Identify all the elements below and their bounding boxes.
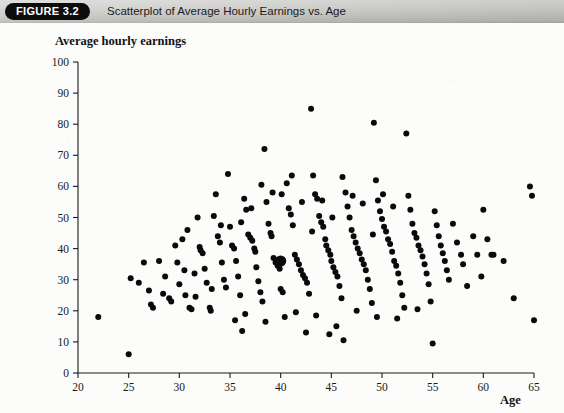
data-point [484, 236, 490, 242]
data-point [309, 229, 315, 235]
data-point [181, 267, 187, 273]
y-tick-label: 40 [58, 243, 70, 255]
data-point [424, 270, 430, 276]
figure-header-bar: FIGURE 3.2 Scatterplot of Average Hourly… [0, 0, 564, 23]
x-tick-label: 55 [427, 381, 439, 393]
data-point [405, 193, 411, 199]
data-point [436, 233, 442, 239]
data-point [434, 222, 440, 228]
data-point [310, 173, 316, 179]
data-point [231, 246, 237, 252]
data-point [192, 270, 198, 276]
data-point [258, 182, 264, 188]
x-tick-label: 40 [275, 381, 287, 393]
data-point [262, 319, 268, 325]
data-point [328, 258, 334, 264]
data-point [176, 281, 182, 287]
data-point [387, 241, 393, 247]
data-point [351, 233, 357, 239]
data-point [389, 249, 395, 255]
data-point [367, 286, 373, 292]
data-point [336, 283, 342, 289]
data-point [223, 284, 229, 290]
data-point [414, 306, 420, 312]
data-point [529, 193, 535, 199]
y-tick-label: 30 [58, 274, 70, 286]
data-point [288, 211, 294, 217]
x-tick-label: 65 [528, 381, 540, 393]
data-point [172, 242, 178, 248]
data-point [259, 298, 265, 304]
data-point [458, 252, 464, 258]
data-point [446, 277, 452, 283]
data-point [233, 258, 239, 264]
data-point [241, 196, 247, 202]
data-point [343, 190, 349, 196]
data-point [280, 289, 286, 295]
scatterplot-svg: 0102030405060708090100 20253035404550556… [0, 23, 564, 413]
data-point [209, 286, 215, 292]
y-tick-label: 20 [58, 305, 70, 317]
data-point [211, 213, 217, 219]
data-point [261, 146, 267, 152]
data-point [375, 197, 381, 203]
data-point [253, 264, 259, 270]
data-point [374, 314, 380, 320]
data-point [403, 131, 409, 137]
data-point [390, 204, 396, 210]
data-point [239, 328, 245, 334]
data-point [282, 314, 288, 320]
data-point [204, 280, 210, 286]
data-point [501, 258, 507, 264]
data-point [531, 317, 537, 323]
data-point [397, 280, 403, 286]
y-tick-group: 0102030405060708090100 [52, 56, 78, 379]
data-point [252, 249, 258, 255]
data-point [249, 238, 255, 244]
data-point [511, 295, 517, 301]
data-point [373, 177, 379, 183]
data-point [168, 298, 174, 304]
data-point [464, 283, 470, 289]
data-point [442, 258, 448, 264]
data-point [289, 173, 295, 179]
data-point [354, 308, 360, 314]
data-point [248, 205, 254, 211]
data-point [218, 222, 224, 228]
data-point [454, 239, 460, 245]
data-point [322, 236, 328, 242]
x-tick-label: 30 [174, 381, 186, 393]
figure-number-badge: FIGURE 3.2 [5, 3, 90, 20]
data-point [306, 291, 312, 297]
data-point [213, 191, 219, 197]
y-tick-label: 80 [58, 118, 70, 130]
data-point [363, 267, 369, 273]
data-point [219, 260, 225, 266]
data-point [409, 221, 415, 227]
data-point [141, 260, 147, 266]
data-point [174, 260, 180, 266]
data-point [345, 204, 351, 210]
data-point [217, 239, 223, 245]
data-points-group [95, 106, 537, 358]
mean-data-point [275, 255, 286, 266]
data-point [208, 308, 214, 314]
data-point [407, 207, 413, 213]
y-tick-label: 100 [52, 56, 70, 68]
y-tick-label: 10 [58, 336, 70, 348]
data-point [304, 280, 310, 286]
data-point [327, 252, 333, 258]
data-point [399, 292, 405, 298]
data-point [277, 266, 283, 272]
data-point [188, 306, 194, 312]
data-point [266, 221, 272, 227]
data-point [450, 221, 456, 227]
data-point [284, 180, 290, 186]
data-point [383, 229, 389, 235]
data-point [202, 266, 208, 272]
data-point [418, 247, 424, 253]
data-point [371, 120, 377, 126]
data-point [269, 233, 275, 239]
data-point [444, 267, 450, 273]
data-point [195, 215, 201, 221]
